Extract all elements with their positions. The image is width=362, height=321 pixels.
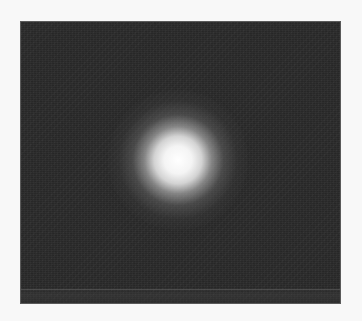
page (0, 0, 362, 321)
bottom-edge-band (21, 289, 340, 303)
glowing-orb (108, 90, 248, 230)
photo (21, 22, 340, 303)
